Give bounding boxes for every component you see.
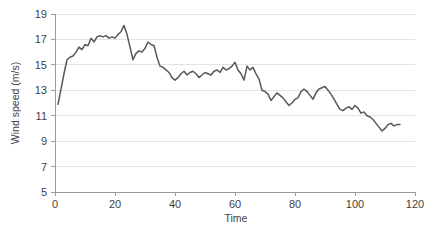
x-tick-label-40: 40 bbox=[169, 198, 181, 210]
y-tick-label-17: 17 bbox=[35, 33, 47, 45]
x-tick-label-100: 100 bbox=[346, 198, 364, 210]
y-tick-label-19: 19 bbox=[35, 8, 47, 20]
axes-group bbox=[55, 14, 415, 192]
x-tick-labels-group: 020406080100120 bbox=[52, 198, 424, 210]
x-tick-label-80: 80 bbox=[289, 198, 301, 210]
series-line-0 bbox=[58, 25, 400, 131]
y-axis-title: Wind speed (m/s) bbox=[9, 62, 21, 144]
x-axis-title: Time bbox=[225, 212, 248, 224]
chart-canvas: 5791113151719 020406080100120 Time Wind … bbox=[0, 0, 436, 236]
y-tick-label-13: 13 bbox=[35, 84, 47, 96]
x-tick-label-0: 0 bbox=[52, 198, 58, 210]
data-series-group bbox=[58, 25, 400, 131]
y-tick-label-7: 7 bbox=[41, 161, 47, 173]
y-tick-labels-group: 5791113151719 bbox=[35, 8, 47, 198]
y-tick-label-9: 9 bbox=[41, 135, 47, 147]
tick-marks-group bbox=[51, 14, 415, 196]
x-tick-label-20: 20 bbox=[109, 198, 121, 210]
wind-speed-line-chart: 5791113151719 020406080100120 Time Wind … bbox=[0, 0, 436, 236]
y-tick-label-5: 5 bbox=[41, 186, 47, 198]
x-tick-label-60: 60 bbox=[229, 198, 241, 210]
x-tick-label-120: 120 bbox=[406, 198, 424, 210]
y-tick-label-15: 15 bbox=[35, 59, 47, 71]
gridlines-group bbox=[55, 14, 415, 192]
y-tick-label-11: 11 bbox=[36, 110, 47, 122]
